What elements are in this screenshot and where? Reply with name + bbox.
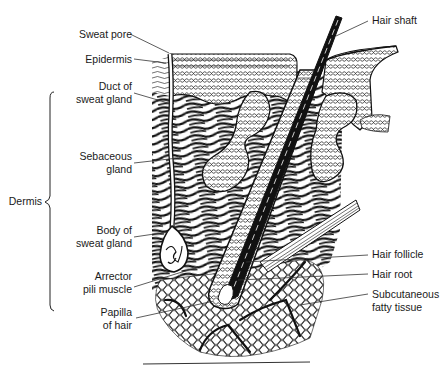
label-sweat-pore: Sweat pore — [79, 28, 132, 41]
dermis-bracket — [45, 92, 54, 311]
label-hair-shaft: Hair shaft — [372, 14, 417, 27]
skin-cross-section-illustration — [0, 0, 448, 370]
sebaceous-gland-right — [311, 93, 390, 182]
label-dermis: Dermis — [9, 195, 42, 208]
bottom-rule — [143, 362, 310, 364]
label-sebaceous-gland: Sebaceous gland — [79, 150, 132, 176]
label-hair-follicle: Hair follicle — [372, 248, 423, 261]
label-duct-of-sweat-gland: Duct of sweat gland — [76, 80, 132, 106]
label-hair-root: Hair root — [372, 268, 412, 281]
label-arrector-pili-muscle: Arrector pili muscle — [83, 270, 132, 296]
label-epidermis: Epidermis — [85, 53, 132, 66]
label-subcutaneous-fatty-tissue: Subcutaneous fatty tissue — [372, 288, 439, 314]
label-body-of-sweat-gland: Body of sweat gland — [76, 224, 132, 250]
label-papilla-of-hair: Papilla of hair — [100, 306, 132, 332]
